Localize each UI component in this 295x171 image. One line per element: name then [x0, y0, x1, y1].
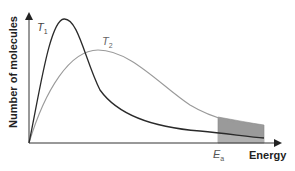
t1-label: T1: [37, 21, 48, 35]
x-axis-label: Energy: [249, 149, 286, 161]
activation-energy-label: Ea: [213, 148, 224, 162]
t2-label: T2: [102, 35, 113, 49]
y-axis-label: Number of molecules: [2, 0, 24, 143]
